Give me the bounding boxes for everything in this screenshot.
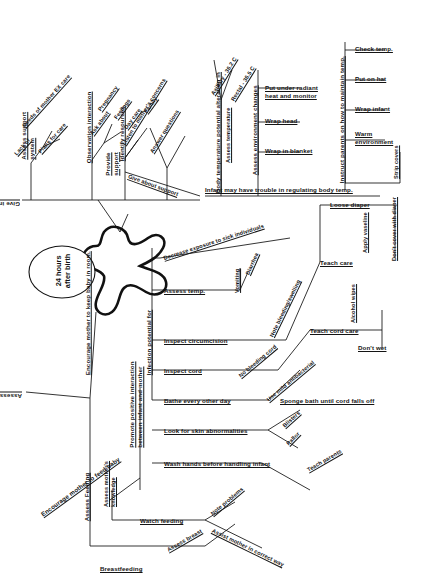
node-infection-potential-for[interactable]: Infection potential for — [146, 310, 153, 376]
node-put-on-hat[interactable]: Put on hat — [355, 76, 386, 83]
node-sponge-bath-until-cord-falls[interactable]: Sponge bath until cord falls off — [280, 398, 374, 405]
node-loose-diaper[interactable]: Loose diaper — [330, 202, 370, 209]
node-alcohol-wipes[interactable]: Alcohol wipes — [351, 284, 357, 323]
node-bathe-every-other-day[interactable]: Bathe every other day — [164, 398, 231, 405]
node-encourage-mother-keep-baby[interactable]: Encourage mother to keep baby in room. — [85, 251, 92, 375]
node-strip-covers[interactable]: Strip covers — [394, 145, 400, 179]
node-assess-temperature[interactable]: Assess temperature — [226, 108, 232, 163]
node-give-information-home-care[interactable]: Give information F/I home care — [0, 200, 20, 207]
node-inspect-cord[interactable]: Inspect cord — [164, 368, 202, 375]
node-check-temp[interactable]: Check temp. — [355, 46, 393, 53]
node-warm-environment[interactable]: Warm environment — [355, 130, 393, 146]
node-inspect-circumcision[interactable]: Inspect circumcision — [164, 338, 228, 345]
node-infant-regulating-body-temp[interactable]: Infant may have trouble in regulating bo… — [205, 187, 353, 194]
node-assess-environment-changes[interactable]: Assess environment changes — [252, 85, 259, 175]
node-wrap-in-blanket[interactable]: Wrap in blanket — [265, 148, 312, 155]
node-assess-feeding[interactable]: Assess Feeding — [84, 473, 91, 522]
node-wrap-infant[interactable]: Wrap infant — [355, 106, 390, 113]
mind-map-canvas: 24 hours after birth Assess support syst… — [0, 0, 421, 586]
node-dont-cover-with-diaper[interactable]: Don't cover with diaper — [392, 197, 398, 261]
node-watch-feeding[interactable]: Watch feeding — [140, 518, 183, 525]
node-wrap-head[interactable]: Wrap head — [265, 118, 297, 125]
node-apply-vaseline[interactable]: Apply vaseline — [363, 212, 369, 253]
center-node-label: 24 hours after birth — [55, 245, 73, 297]
node-look-for-skin-abnormalities[interactable]: Look for skin abnormalities — [164, 428, 248, 435]
node-provide-support[interactable]: Provide support — [104, 152, 120, 176]
node-put-under-radiant-heat[interactable]: Put under radiant heat and monitor — [265, 84, 318, 100]
node-assess-mothers-knowledge[interactable]: Assess mother's knowledge — [103, 461, 117, 507]
node-vomiting[interactable]: Vomiting — [235, 269, 241, 293]
node-wash-hands-before-handling[interactable]: Wash hands before handling infant — [164, 461, 270, 468]
node-breastfeeding[interactable]: Breastfeeding — [100, 566, 143, 573]
node-promote-positive-interaction[interactable]: Promote positive interaction between inf… — [128, 361, 144, 447]
node-assess-temp[interactable]: Assess temp. — [164, 288, 205, 295]
node-assess-interaction[interactable]: Assess interaction — [0, 392, 22, 399]
node-instruct-parents-maintain-temp[interactable]: Instruct parents on how to maintain temp… — [339, 56, 346, 183]
node-teach-care[interactable]: Teach care — [320, 260, 353, 267]
node-dont-wet[interactable]: Don't wet — [358, 345, 387, 352]
node-teach-cord-care[interactable]: Teach cord care — [310, 328, 359, 335]
